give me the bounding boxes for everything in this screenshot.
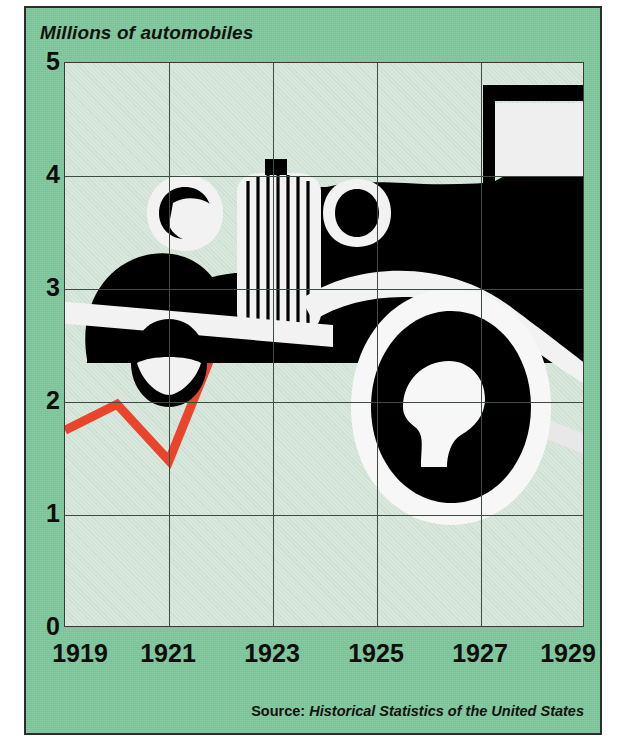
gridline-horizontal [65, 515, 583, 516]
y-axis-title: Millions of automobiles [40, 22, 253, 44]
source-label: Source: [251, 703, 305, 719]
x-axis-tick-label: 1929 [540, 641, 596, 666]
y-axis-tick-label: 2 [26, 388, 60, 413]
x-axis-tick-label: 1925 [348, 641, 404, 666]
vintage-automobile-illustration [65, 63, 584, 627]
source-note: Source: Historical Statistics of the Uni… [251, 703, 584, 719]
plot-area [64, 62, 584, 627]
gridline-vertical [377, 63, 378, 626]
gridline-horizontal [65, 402, 583, 403]
gridline-vertical [169, 63, 170, 626]
y-axis-tick-label: 5 [26, 49, 60, 74]
y-axis-tick-label: 3 [26, 275, 60, 300]
chart-figure: Millions of automobiles [24, 6, 602, 735]
gridline-vertical [481, 63, 482, 626]
y-axis-tick-label: 4 [26, 162, 60, 187]
gridline-horizontal [65, 289, 583, 290]
gridline-vertical [273, 63, 274, 626]
source-title: Historical Statistics of the United Stat… [309, 703, 584, 719]
x-axis-tick-label: 1919 [52, 641, 108, 666]
y-axis-tick-label: 1 [26, 501, 60, 526]
x-axis-tick-label: 1921 [140, 641, 196, 666]
gridline-horizontal [65, 176, 583, 177]
x-axis-tick-label: 1923 [244, 641, 300, 666]
y-axis-tick-label: 0 [26, 614, 60, 639]
x-axis-tick-label: 1927 [452, 641, 508, 666]
